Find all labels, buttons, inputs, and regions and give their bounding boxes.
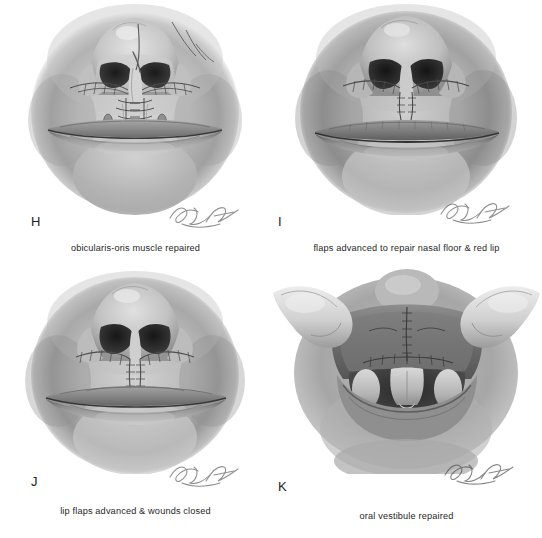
illustration-j [0,269,271,474]
artist-signature-k [441,459,519,489]
figure-panel-j: J lip flaps advanced & wounds closed [0,269,271,538]
panel-letter-i: I [278,214,282,229]
artist-signature-j [166,461,244,491]
panel-caption-h: obicularis-oris muscle repaired [0,243,271,253]
figure-panel-i: I flaps advanced to repair nasal floor &… [271,0,542,269]
panel-caption-i: flaps advanced to repair nasal floor & r… [271,243,542,253]
artist-signature-h [166,202,244,232]
panel-caption-k: oral vestibule repaired [271,511,542,521]
panel-letter-k: K [278,479,287,494]
retractor-finger-right-k [460,286,540,348]
panel-letter-h: H [31,214,41,229]
figure-plate: H obicularis-oris muscle repaired [0,0,542,538]
panel-letter-j: J [31,474,38,489]
artist-signature-i [437,198,515,228]
illustration-i [271,0,542,215]
illustration-k [271,269,542,474]
figure-panel-h: H obicularis-oris muscle repaired [0,0,271,269]
illustration-h [0,0,271,215]
panel-caption-j: lip flaps advanced & wounds closed [0,506,271,516]
figure-panel-k: K oral vestibule repaired [271,269,542,538]
